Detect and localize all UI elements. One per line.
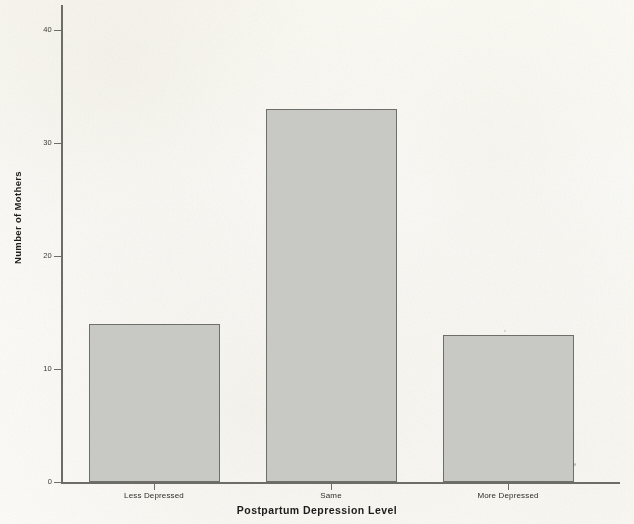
plot-area: 0 10 20 30 40 Less Depressed Same More D… [0, 0, 634, 524]
bar-more-depressed[interactable] [443, 335, 574, 482]
y-tick-label-40: 40 [43, 25, 52, 34]
paper-speck [504, 330, 506, 332]
x-tick-label-more-depressed: More Depressed [438, 491, 578, 500]
x-axis-title: Postpartum Depression Level [0, 504, 634, 516]
x-axis-line [61, 482, 620, 484]
y-tick-mark-40 [54, 30, 62, 31]
y-axis-title: Number of Mothers [12, 138, 23, 298]
bar-same[interactable] [266, 109, 397, 482]
x-tick-mark-0 [154, 483, 155, 490]
x-tick-mark-2 [508, 483, 509, 490]
y-tick-mark-0 [54, 482, 62, 483]
y-tick-label-10: 10 [43, 364, 52, 373]
y-axis-line [61, 5, 63, 483]
bar-less-depressed[interactable] [89, 324, 220, 482]
y-tick-mark-20 [54, 256, 62, 257]
y-tick-label-20: 20 [43, 251, 52, 260]
y-tick-mark-10 [54, 369, 62, 370]
x-tick-mark-1 [331, 483, 332, 490]
x-tick-label-same: Same [261, 491, 401, 500]
y-tick-label-0: 0 [48, 477, 52, 486]
paper-speck [574, 463, 576, 466]
x-tick-label-less-depressed: Less Depressed [84, 491, 224, 500]
y-tick-mark-30 [54, 143, 62, 144]
chart-container: 0 10 20 30 40 Less Depressed Same More D… [0, 0, 634, 524]
y-tick-label-30: 30 [43, 138, 52, 147]
